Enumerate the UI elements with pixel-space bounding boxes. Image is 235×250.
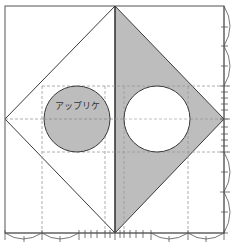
- quilt-block-diagram: アップリケ: [0, 0, 235, 250]
- applique-label: アップリケ: [55, 101, 100, 111]
